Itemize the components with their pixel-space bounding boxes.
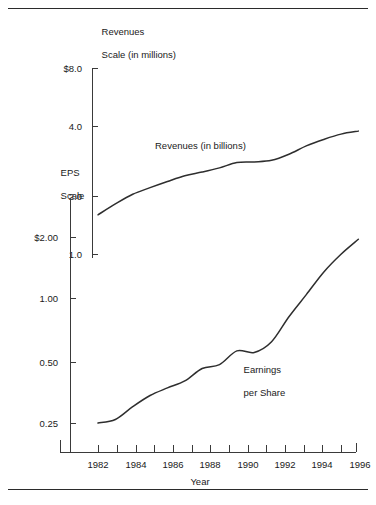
eps-series-line	[98, 239, 358, 423]
revenues-series-line	[98, 131, 358, 215]
plot-area	[0, 0, 376, 505]
x-axis-ticks	[98, 445, 341, 452]
figure-container: Revenues Scale (in millions) EPS Scale $…	[0, 0, 376, 505]
